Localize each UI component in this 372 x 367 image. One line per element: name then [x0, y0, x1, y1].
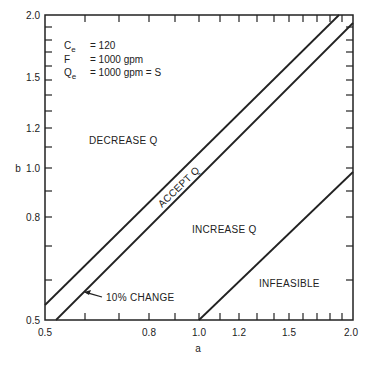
y-tick-label: 1.5 [26, 72, 40, 83]
x-tick-label: 1.5 [282, 327, 296, 338]
y-tick-label: 1.2 [26, 123, 40, 134]
region-label-increase: INCREASE Q [192, 224, 257, 235]
annotation-10pct-change: 10% CHANGE [106, 292, 175, 303]
region-label-accept: ACCEPT Q [156, 164, 202, 209]
param-ce: Ce= 120 [64, 40, 116, 54]
x-tick-label: 1.2 [232, 327, 246, 338]
y-tick-label: 1.0 [26, 163, 40, 174]
parameter-legend: Ce= 120 F= 1000 gpm Qe= 1000 gpm = S [64, 40, 161, 81]
region-label-infeasible: INFEASIBLE [259, 278, 320, 289]
y-axis-title: b [15, 163, 21, 174]
chart-canvas: 2.0 1.5 1.2 1.0 0.8 0.5 0.5 0.8 1.0 1.2 … [0, 0, 372, 367]
feasibility-boundary-line [199, 172, 353, 320]
y-tick-label: 2.0 [26, 10, 40, 21]
change-annotation: 10% CHANGE [84, 290, 175, 303]
x-axis-title: a [195, 343, 201, 354]
y-tick-label: 0.8 [26, 212, 40, 223]
x-tick-label: 0.5 [38, 327, 52, 338]
region-label-decrease: DECREASE Q [89, 135, 158, 146]
x-tick-label: 1.0 [192, 327, 206, 338]
param-qe: Qe= 1000 gpm = S [64, 67, 161, 81]
param-f: F= 1000 gpm [64, 54, 143, 65]
x-tick-label: 0.8 [142, 327, 156, 338]
y-tick-label: 0.5 [26, 315, 40, 326]
x-tick-label: 2.0 [344, 327, 358, 338]
